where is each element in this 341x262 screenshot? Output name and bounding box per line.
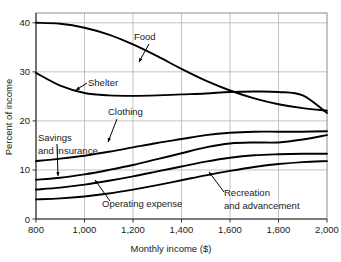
chart-container: 800 1,000 1,200 1,400 1,600 1,800 2,000 … bbox=[0, 0, 341, 262]
y-tick-label-20: 20 bbox=[19, 115, 30, 126]
annotation-savings-line2: and insurance bbox=[38, 145, 98, 156]
y-tick-label-30: 30 bbox=[19, 66, 30, 77]
y-tick-label-40: 40 bbox=[19, 17, 30, 28]
y-tick-label-10: 10 bbox=[19, 164, 30, 175]
x-axis-title: Monthly income ($) bbox=[131, 243, 212, 254]
x-tick-label-1000: 1,000 bbox=[73, 224, 97, 235]
annotation-operating-expense: Operating expense bbox=[102, 198, 182, 209]
x-tick-label-800: 800 bbox=[28, 224, 44, 235]
annotation-clothing: Clothing bbox=[108, 106, 143, 117]
y-axis-title: Percent of income bbox=[3, 79, 14, 156]
x-tick-label-1800: 1,800 bbox=[267, 224, 291, 235]
annotation-recreation-line2: and advancement bbox=[224, 200, 300, 211]
annotation-food: Food bbox=[134, 31, 156, 42]
annotation-shelter: Shelter bbox=[88, 77, 118, 88]
x-tick-label-2000: 2,000 bbox=[315, 224, 339, 235]
x-tick-label-1400: 1,400 bbox=[170, 224, 194, 235]
x-tick-label-1600: 1,600 bbox=[218, 224, 242, 235]
annotation-savings-line1: Savings bbox=[38, 132, 72, 143]
annotation-recreation-line1: Recreation bbox=[224, 187, 270, 198]
x-tick-label-1200: 1,200 bbox=[121, 224, 145, 235]
y-tick-label-0: 0 bbox=[25, 214, 30, 225]
expenditure-line-chart: 800 1,000 1,200 1,400 1,600 1,800 2,000 … bbox=[0, 0, 341, 262]
